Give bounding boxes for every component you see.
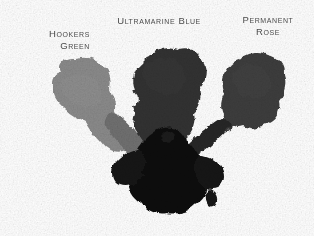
swatch-label-ultramarine-blue: Ultramarine Blue — [104, 15, 214, 27]
swatch-label-hookers-green: Hookers Green — [6, 28, 90, 51]
swatch-label-permanent-rose: Permanent Rose — [228, 14, 308, 37]
ink-swatch-canvas: Hookers Green Ultramarine Blue Permanent… — [0, 0, 314, 236]
